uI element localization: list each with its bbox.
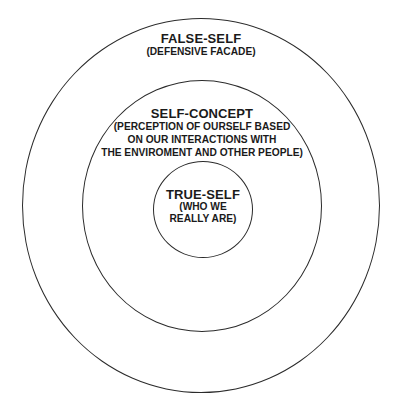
true-self-description-line-2: REALLY ARE) (3, 214, 400, 224)
self-concentric-diagram: FALSE-SELF (DEFENSIVE FACADE) SELF-CONCE… (0, 0, 400, 415)
false-self-description: (DEFENSIVE FACADE) (1, 47, 400, 57)
self-concept-title: SELF-CONCEPT (2, 107, 400, 120)
false-self-title: FALSE-SELF (1, 32, 400, 45)
self-concept-description-line-1: (PERCEPTION OF OURSELF BASED (2, 122, 400, 132)
true-self-title: TRUE-SELF (3, 188, 400, 201)
true-self-description-line-1: (WHO WE (3, 202, 400, 212)
self-concept-description-line-2: ON OUR INTERACTIONS WITH (2, 135, 400, 145)
self-concept-description-line-3: THE ENVIROMENT AND OTHER PEOPLE) (2, 148, 400, 158)
